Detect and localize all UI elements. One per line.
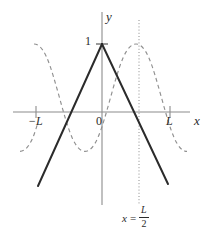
y-axis-label: y: [106, 10, 112, 23]
y-tick-label-one: 1: [85, 35, 91, 47]
origin-label: 0: [96, 115, 102, 127]
solid-triangle-wave: [38, 44, 168, 186]
x-axis-label: x: [194, 114, 200, 127]
x-tick-label-positive-L: L: [166, 115, 173, 127]
fraction-denominator: 2: [139, 219, 148, 230]
tick-group: [36, 44, 170, 118]
fraction-numerator: L: [139, 205, 149, 216]
triangle-right-branch: [102, 44, 168, 184]
triangle-left-branch: [38, 44, 102, 186]
annotation-variable: x: [122, 213, 127, 224]
annotation-fraction: L 2: [139, 205, 149, 229]
figure-canvas: y x 1 0 −L L x = L 2: [0, 0, 211, 233]
annotation-equals: =: [129, 213, 137, 224]
x-tick-label-negative-L: −L: [28, 115, 43, 127]
guide-line-annotation: x = L 2: [122, 206, 149, 230]
